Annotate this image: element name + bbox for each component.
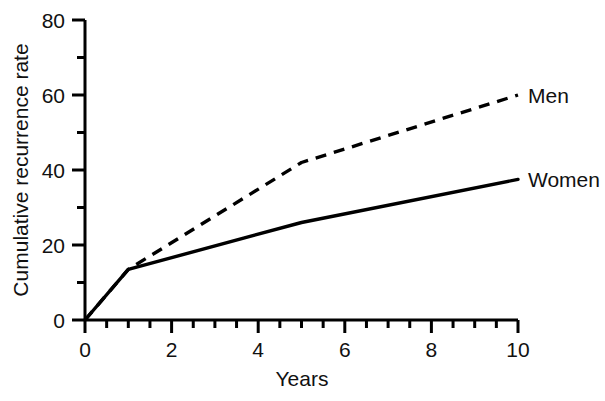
y-tick-label: 40	[42, 159, 65, 182]
x-tick-label: 2	[166, 338, 178, 361]
x-tick-label: 4	[252, 338, 264, 361]
x-axis-tick-labels: 0246810	[79, 338, 530, 361]
y-axis-title: Cumulative recurrence rate	[9, 43, 32, 296]
cumulative-recurrence-rate-chart: 020406080 0246810 Men Women Years Cumula…	[0, 0, 605, 401]
x-tick-label: 0	[79, 338, 91, 361]
y-tick-label: 80	[42, 9, 65, 32]
y-axis-tick-labels: 020406080	[42, 9, 65, 332]
series-line-women	[85, 179, 518, 320]
y-axis-major-ticks	[72, 20, 85, 320]
y-tick-label: 0	[53, 309, 65, 332]
series-label-women: Women	[528, 168, 600, 191]
y-tick-label: 60	[42, 84, 65, 107]
x-tick-label: 8	[426, 338, 438, 361]
x-tick-label: 10	[506, 338, 529, 361]
series-label-men: Men	[528, 84, 569, 107]
x-axis-title: Years	[276, 367, 329, 390]
chart-figure: 020406080 0246810 Men Women Years Cumula…	[0, 0, 605, 401]
x-tick-label: 6	[339, 338, 351, 361]
series-line-men	[85, 95, 518, 320]
y-tick-label: 20	[42, 234, 65, 257]
